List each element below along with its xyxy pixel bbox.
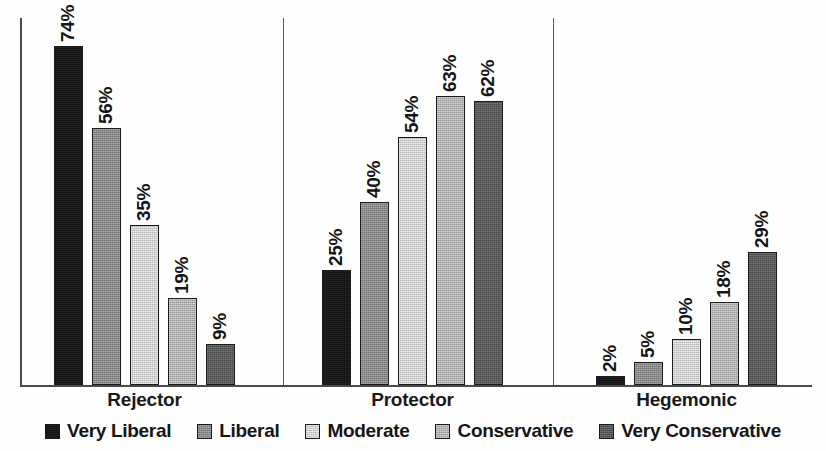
bar-chart: 74%56%35%19%9%25%40%54%63%62%2%5%10%18%2…	[0, 0, 826, 451]
bar-value-label: 5%	[637, 331, 659, 363]
bar-value-label: 18%	[713, 261, 735, 303]
bar-hegemonic-conservative: 18%	[710, 302, 739, 385]
bar-protector-moderate: 54%	[398, 137, 427, 385]
bar-value-label: 62%	[477, 60, 499, 102]
group-divider-1	[283, 18, 284, 386]
bar-hegemonic-very-liberal: 2%	[596, 376, 625, 385]
bar-value-label: 56%	[95, 87, 117, 129]
legend-item-moderate[interactable]: Moderate	[305, 420, 409, 442]
legend-label: Moderate	[327, 420, 409, 442]
bar-rejector-liberal: 56%	[92, 128, 121, 385]
bar-value-label: 54%	[401, 96, 423, 138]
group-divider-2	[553, 18, 554, 386]
bar-protector-very-conservative: 62%	[474, 101, 503, 385]
legend-swatch-icon	[435, 424, 450, 439]
bar-hegemonic-very-conservative: 29%	[748, 252, 777, 385]
bar-value-label: 40%	[363, 161, 385, 203]
legend-item-liberal[interactable]: Liberal	[197, 420, 279, 442]
bar-protector-conservative: 63%	[436, 96, 465, 385]
bar-value-label: 10%	[675, 298, 697, 340]
legend-item-very-liberal[interactable]: Very Liberal	[45, 420, 171, 442]
legend-swatch-icon	[599, 424, 614, 439]
bar-hegemonic-liberal: 5%	[634, 362, 663, 385]
legend-swatch-icon	[45, 424, 60, 439]
bar-value-label: 29%	[751, 211, 773, 253]
legend-label: Liberal	[219, 420, 279, 442]
bar-value-label: 35%	[133, 184, 155, 226]
legend-swatch-icon	[197, 424, 212, 439]
legend-item-conservative[interactable]: Conservative	[435, 420, 573, 442]
legend-label: Very Liberal	[67, 420, 171, 442]
group-label-rejector: Rejector	[54, 389, 235, 411]
legend-label: Conservative	[457, 420, 573, 442]
bar-protector-liberal: 40%	[360, 202, 389, 385]
bar-value-label: 2%	[599, 345, 621, 377]
bar-protector-very-liberal: 25%	[322, 270, 351, 385]
legend-swatch-icon	[305, 424, 320, 439]
bar-rejector-very-conservative: 9%	[206, 344, 235, 385]
legend-label: Very Conservative	[621, 420, 781, 442]
bar-value-label: 9%	[209, 313, 231, 345]
bar-value-label: 19%	[171, 257, 193, 299]
chart-legend: Very LiberalLiberalModerateConservativeV…	[0, 420, 826, 442]
group-label-hegemonic: Hegemonic	[596, 389, 777, 411]
group-label-protector: Protector	[322, 389, 503, 411]
bar-rejector-very-liberal: 74%	[54, 46, 83, 385]
x-axis-line	[20, 385, 812, 387]
legend-item-very-conservative[interactable]: Very Conservative	[599, 420, 781, 442]
bar-value-label: 74%	[57, 5, 79, 47]
bar-rejector-moderate: 35%	[130, 225, 159, 385]
bar-value-label: 63%	[439, 55, 461, 97]
y-axis-line	[20, 18, 22, 385]
bar-value-label: 25%	[325, 229, 347, 271]
bar-hegemonic-moderate: 10%	[672, 339, 701, 385]
plot-area: 74%56%35%19%9%25%40%54%63%62%2%5%10%18%2…	[0, 0, 826, 395]
bar-rejector-conservative: 19%	[168, 298, 197, 385]
